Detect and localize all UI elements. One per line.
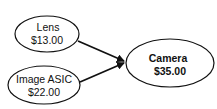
node-camera-name: Camera <box>149 52 188 64</box>
node-camera[interactable]: Camera $35.00 <box>126 39 214 87</box>
node-image-asic[interactable]: Image ASIC $22.00 <box>8 66 80 104</box>
node-lens[interactable]: Lens $13.00 <box>15 16 79 52</box>
cost-diagram: Lens $13.00 Image ASIC $22.00 Camera $35… <box>0 0 217 109</box>
edge-asic-to-camera <box>80 63 124 82</box>
node-image-asic-name: Image ASIC <box>16 73 72 85</box>
edge-lens-to-camera <box>78 41 124 61</box>
node-lens-price: $13.00 <box>31 34 63 46</box>
node-image-asic-price: $22.00 <box>28 86 60 98</box>
node-lens-name: Lens <box>37 21 60 33</box>
node-camera-price: $35.00 <box>154 65 186 77</box>
